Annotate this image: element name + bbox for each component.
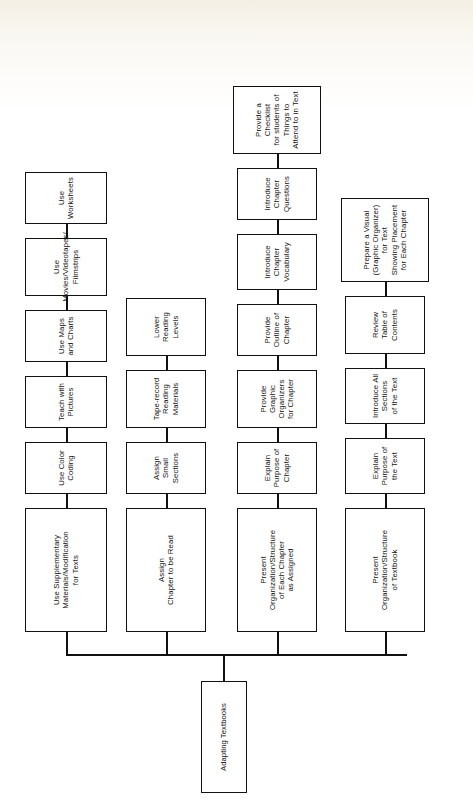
connector-b3-c2 (166, 428, 168, 442)
connector-b4-c2 (66, 428, 68, 442)
leaf-node-use-worksheets[interactable]: Use Worksheets (25, 172, 107, 224)
leaf-node-use-color-coding[interactable]: Use Color Coding (25, 442, 107, 494)
branch-node-present-chapter[interactable]: Present Organization/Structure of Each C… (237, 508, 317, 632)
branch-node-assign-chapter[interactable]: Assign Chapter to be Read (126, 508, 206, 632)
connector-b2-c6 (277, 154, 279, 168)
leaf-node-tape-record-reading-materials[interactable]: Tape-record Reading Materials (126, 370, 206, 428)
leaf-node-explain-purpose-text[interactable]: Explain Purpose of the Text (345, 438, 425, 494)
connector-b4-c3 (66, 362, 68, 376)
diagram-canvas: Adapting Textbooks Present Organization/… (0, 0, 473, 803)
connector-b1-c2 (385, 424, 387, 438)
root-node-adapting-textbooks[interactable]: Adapting Textbooks (201, 681, 247, 793)
leaf-node-assign-small-sections[interactable]: Assign Small Sections (126, 442, 206, 494)
connector-branch-2-stem (277, 632, 279, 656)
leaf-node-introduce-all-sections[interactable]: Introduce All Sections of the Text (345, 368, 425, 424)
leaf-node-review-table-of-contents[interactable]: Review Table of Contents (345, 296, 425, 354)
leaf-node-teach-with-pictures[interactable]: Teach with Pictures (25, 376, 107, 428)
page-background: Adapting Textbooks Present Organization/… (0, 0, 473, 803)
connector-b3-c3 (166, 356, 168, 370)
connector-b1-c3 (385, 354, 387, 368)
connector-branch-1-stem (385, 632, 387, 656)
leaf-node-use-maps-and-charts[interactable]: Use Maps and Charts (25, 310, 107, 362)
connector-b1-c4 (385, 282, 387, 296)
connector-branch-3-stem (166, 632, 168, 656)
leaf-node-provide-graphic-organizers[interactable]: Provide Graphic Organizers for Chapter (237, 370, 317, 428)
leaf-node-use-movies-videotapes-filmstrips[interactable]: Use Movies/Videotapes/ Filmstrips (25, 238, 107, 296)
leaf-node-provide-outline-chapter[interactable]: Provide Outline of Chapter (237, 304, 317, 356)
connector-b2-c5 (277, 220, 279, 234)
leaf-node-provide-checklist[interactable]: Provide a Checklist for students of Thin… (233, 86, 321, 154)
connector-b4-c5 (66, 224, 68, 238)
connector-root-stem (223, 655, 225, 681)
leaf-node-introduce-chapter-vocabulary[interactable]: Introduce Chapter Vocabulary (237, 234, 317, 290)
connector-branch-4-stem (66, 632, 68, 656)
leaf-node-introduce-chapter-questions[interactable]: Introduce Chapter Questions (237, 168, 317, 220)
connector-b2-c3 (277, 356, 279, 370)
leaf-node-prepare-visual-graphic-organizer[interactable]: Prepare a Visual (Graphic Organizer) for… (341, 198, 429, 282)
leaf-node-explain-purpose-chapter[interactable]: Explain Purpose of Chapter (237, 442, 317, 494)
connector-b2-c2 (277, 428, 279, 442)
connector-b2-c1 (277, 494, 279, 508)
connector-b2-c4 (277, 290, 279, 304)
branch-node-present-textbook[interactable]: Present Organization/Structure of Textbo… (345, 508, 425, 632)
branch-node-use-supplementary[interactable]: Use Supplementary Materials/Modification… (25, 508, 107, 632)
leaf-node-lower-reading-levels[interactable]: Lower Reading Levels (126, 298, 206, 356)
connector-main-spine (66, 654, 407, 656)
connector-b3-c1 (166, 494, 168, 508)
connector-b4-c1 (66, 494, 68, 508)
connector-b1-c1 (385, 494, 387, 508)
